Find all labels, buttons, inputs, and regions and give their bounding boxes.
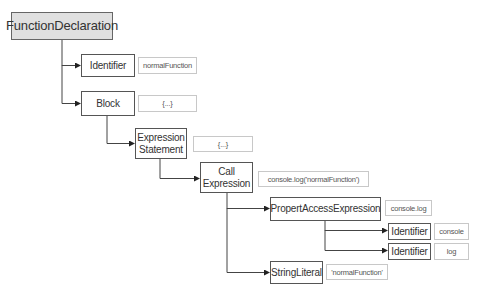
value-identifier-name: normalFunction: [138, 57, 197, 74]
node-identifier-name: Identifier: [81, 54, 135, 77]
value-text: normalFunction: [143, 61, 192, 70]
node-label: FunctionDeclaration: [6, 20, 118, 32]
value-expression-statement: {...}: [193, 136, 253, 152]
value-identifier-log: log: [434, 243, 469, 260]
node-label: StringLiteral: [271, 267, 322, 279]
value-property-access-expression: console.log: [385, 200, 432, 216]
value-text: console: [439, 227, 463, 236]
node-identifier-console: Identifier: [388, 223, 431, 240]
value-text: console.log('normalFunction'): [268, 175, 360, 184]
node-call-expression: Call Expression: [200, 162, 253, 193]
value-text: {...}: [218, 140, 228, 149]
node-identifier-log: Identifier: [388, 243, 431, 260]
value-string-literal: 'normalFunction': [326, 264, 388, 280]
value-call-expression: console.log('normalFunction'): [258, 171, 369, 187]
node-label: Expression Statement: [136, 132, 186, 156]
value-text: console.log: [391, 204, 427, 213]
node-label: Identifier: [391, 246, 427, 258]
value-block: {...}: [138, 95, 197, 112]
node-string-literal: StringLiteral: [270, 261, 323, 284]
node-property-access-expression: PropertAccessExpression: [270, 197, 381, 221]
value-text: {...}: [162, 99, 172, 108]
node-label: Call Expression: [201, 166, 252, 190]
node-block: Block: [81, 91, 135, 116]
node-label: Identifier: [391, 226, 427, 238]
value-text: log: [447, 247, 456, 256]
value-text: 'normalFunction': [331, 268, 382, 277]
node-expression-statement: Expression Statement: [135, 128, 187, 159]
node-label: PropertAccessExpression: [271, 203, 381, 215]
value-identifier-console: console: [434, 223, 469, 240]
node-label: Block: [96, 98, 119, 110]
node-function-declaration: FunctionDeclaration: [11, 12, 113, 40]
node-label: Identifier: [90, 60, 126, 72]
